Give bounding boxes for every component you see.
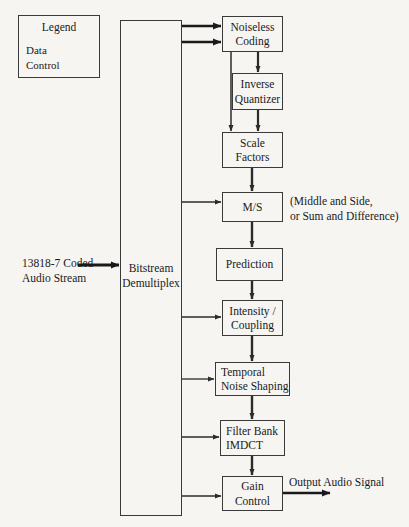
intensity-coupling-label-line1: Intensity / [229,304,275,319]
scale-factors-block[interactable]: Scale Factors [222,132,283,168]
ms-annotation: (Middle and Side, or Sum and Difference) [290,194,399,223]
noiseless-coding-block[interactable]: Noiseless Coding [222,16,283,52]
filter-bank-imdct-label-line2: IMDCT [226,438,263,453]
scale-factors-label-line2: Factors [236,150,270,165]
scale-factors-label-line1: Scale [240,136,265,151]
prediction-block[interactable]: Prediction [216,248,283,281]
legend-data-label: Data [26,44,47,56]
prediction-label-line1: Prediction [226,257,273,272]
bitstream-demultiplex-block[interactable]: Bitstream Demultiplex [120,20,182,516]
demux-label-line1: Bitstream [129,262,174,274]
gain-control-block[interactable]: Gain Control [222,476,283,511]
temporal-noise-shaping-label-line1: Temporal [221,365,265,380]
input-stream-label-line1: 13818-7 Coded [22,256,93,271]
output-audio-signal-label: Output Audio Signal [289,475,384,490]
temporal-noise-shaping-block[interactable]: Temporal Noise Shaping [215,362,290,396]
inverse-quantizer-label-line2: Quantizer [235,92,280,107]
intensity-coupling-block[interactable]: Intensity / Coupling [222,300,283,336]
ms-annotation-line2: or Sum and Difference) [290,209,399,224]
gain-control-label-line2: Control [235,494,270,509]
demux-label-line2: Demultiplex [122,277,180,289]
gain-control-label-line1: Gain [241,479,263,494]
legend-control-label: Control [26,59,60,71]
input-stream-label: 13818-7 Coded Audio Stream [22,256,93,285]
block-diagram-canvas: Legend Data Control 13818-7 Coded Audio … [0,0,409,527]
inverse-quantizer-label-line1: Inverse [241,77,275,92]
control-path-connectors [182,202,221,496]
ms-block[interactable]: M/S [222,192,283,222]
input-stream-label-line2: Audio Stream [22,271,93,286]
legend-title: Legend [19,21,99,33]
legend-panel: Legend Data Control [18,15,100,78]
ms-annotation-line1: (Middle and Side, [290,194,399,209]
filter-bank-imdct-block[interactable]: Filter Bank IMDCT [220,420,285,456]
filter-bank-imdct-label-line1: Filter Bank [226,424,278,439]
inverse-quantizer-block[interactable]: Inverse Quantizer [232,73,283,110]
noiseless-coding-label-line2: Coding [236,34,270,49]
ms-label-line1: M/S [243,200,263,215]
noiseless-coding-label-line1: Noiseless [230,20,274,35]
bitstream-demultiplex-label: Bitstream Demultiplex [121,261,181,290]
data-path-connectors [78,26,330,493]
temporal-noise-shaping-label-line2: Noise Shaping [221,379,288,394]
intensity-coupling-label-line2: Coupling [231,318,274,333]
